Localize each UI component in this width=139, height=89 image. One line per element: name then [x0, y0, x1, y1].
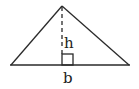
triangle-diagram: h b — [0, 0, 139, 89]
base-label: b — [63, 69, 73, 87]
height-label: h — [64, 34, 74, 52]
right-angle-marker — [62, 54, 73, 65]
triangle-left-side — [11, 6, 62, 65]
